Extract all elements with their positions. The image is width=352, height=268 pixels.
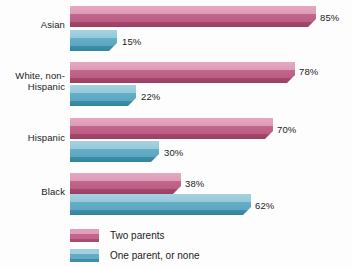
bar-white-one-parent: [70, 85, 136, 106]
legend-label-one-parent-or-none: One parent, or none: [110, 250, 200, 262]
bar-chart: Asian White, non- Hispanic Hispanic Blac…: [0, 0, 352, 268]
value-label-hispanic-one-parent: 30%: [164, 147, 183, 158]
bar-white-two-parents: [70, 62, 295, 83]
value-label-white-two-parents: 78%: [299, 66, 318, 77]
bar-band-mid: [70, 181, 181, 189]
bar-band-top: [70, 30, 117, 38]
bar-band-top: [70, 6, 316, 14]
bar-asian-two-parents: [70, 6, 316, 27]
bar-band-mid: [70, 70, 295, 78]
bar-band-bottom: [70, 157, 159, 162]
category-label-black: Black: [0, 186, 65, 197]
bar-band-bottom: [70, 134, 273, 139]
value-label-black-two-parents: 38%: [185, 178, 204, 189]
value-label-black-one-parent: 62%: [255, 200, 274, 211]
legend-label-two-parents: Two parents: [110, 230, 164, 242]
bar-band-mid: [70, 38, 117, 46]
value-label-asian-two-parents: 85%: [320, 12, 339, 23]
value-label-hispanic-two-parents: 70%: [277, 124, 296, 135]
category-label-white-non-hispanic: White, non- Hispanic: [0, 70, 65, 92]
bar-band-mid: [70, 202, 251, 210]
legend-swatch-one-parent-or-none: [70, 249, 99, 262]
bar-band-mid: [70, 14, 316, 22]
bar-band-top: [70, 141, 159, 149]
value-label-white-one-parent: 22%: [141, 91, 160, 102]
bar-hispanic-two-parents: [70, 118, 273, 139]
category-label-asian: Asian: [0, 19, 65, 30]
bar-band-bottom: [70, 210, 251, 215]
bar-band-mid: [70, 149, 159, 157]
bar-band-top: [70, 118, 273, 126]
bar-band-top: [70, 173, 181, 181]
bar-band-bottom: [70, 78, 295, 83]
legend-band-bottom: [70, 259, 99, 262]
bar-hispanic-one-parent: [70, 141, 159, 162]
bar-band-mid: [70, 126, 273, 134]
legend-swatch-two-parents: [70, 229, 99, 242]
bar-band-mid: [70, 93, 136, 101]
bar-band-top: [70, 194, 251, 202]
bar-band-bottom: [70, 101, 136, 106]
bar-asian-one-parent: [70, 30, 117, 51]
bar-band-top: [70, 85, 136, 93]
bar-band-bottom: [70, 22, 316, 27]
legend-band-bottom: [70, 239, 99, 242]
category-label-hispanic: Hispanic: [0, 132, 65, 143]
bar-band-top: [70, 62, 295, 70]
bar-black-one-parent: [70, 194, 251, 215]
value-label-asian-one-parent: 15%: [122, 36, 141, 47]
bar-black-two-parents: [70, 173, 181, 194]
